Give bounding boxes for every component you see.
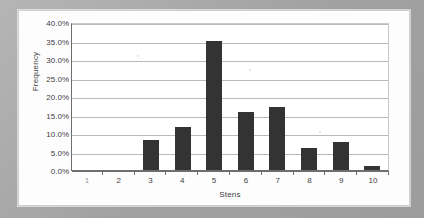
y-axis-tick-label: 30.0% xyxy=(21,56,69,65)
tick-slot xyxy=(262,171,294,175)
bar[interactable] xyxy=(143,140,159,170)
tick-slot xyxy=(230,171,262,175)
y-axis-tick-label: 10.0% xyxy=(21,130,69,139)
bar[interactable] xyxy=(364,166,380,170)
y-axis-tick-label: 20.0% xyxy=(21,93,69,102)
bar-slot xyxy=(135,24,167,170)
tick-slot xyxy=(166,171,198,175)
bar-slot xyxy=(72,24,104,170)
tick-slot xyxy=(325,171,357,175)
x-axis-tick-label: 5 xyxy=(198,176,230,185)
x-axis-tick-labels: 12345678910 xyxy=(71,176,389,185)
bar[interactable] xyxy=(175,127,191,170)
x-axis-tick-label: 7 xyxy=(262,176,294,185)
bar-slot xyxy=(325,24,357,170)
y-axis-tick-label: 15.0% xyxy=(21,111,69,120)
y-axis-tick-label: 5.0% xyxy=(21,148,69,157)
y-axis-tick-label: 25.0% xyxy=(21,74,69,83)
bar-slot xyxy=(198,24,230,170)
scan-speckle xyxy=(137,55,139,57)
y-axis-tick-label: 35.0% xyxy=(21,37,69,46)
y-axis-tick-label: 0.0% xyxy=(21,167,69,176)
bar-series xyxy=(72,24,388,170)
x-axis-tick-label: 9 xyxy=(325,176,357,185)
scan-speckle xyxy=(319,131,321,133)
bar[interactable] xyxy=(301,148,317,170)
bar[interactable] xyxy=(238,112,254,170)
bar[interactable] xyxy=(333,142,349,170)
bar-slot xyxy=(104,24,136,170)
bar-slot xyxy=(230,24,262,170)
x-axis-tick-label: 6 xyxy=(230,176,262,185)
tick-slot xyxy=(71,171,103,175)
bar[interactable] xyxy=(206,41,222,171)
x-axis-tick-label: 2 xyxy=(103,176,135,185)
x-axis-tick-label: 10 xyxy=(357,176,389,185)
chart-page: Frequency 40.0%35.0%30.0%25.0%20.0%15.0%… xyxy=(0,0,424,218)
tick-slot xyxy=(294,171,326,175)
x-axis-title: Stens xyxy=(71,190,389,199)
tick-slot xyxy=(357,171,389,175)
tick-slot xyxy=(198,171,230,175)
scan-speckle xyxy=(249,69,251,71)
bar[interactable] xyxy=(269,107,285,170)
bar-slot xyxy=(356,24,388,170)
x-axis-tick-marks xyxy=(71,171,389,175)
y-axis-tick-label: 40.0% xyxy=(21,19,69,28)
bar-slot xyxy=(167,24,199,170)
tick-slot xyxy=(103,171,135,175)
x-axis-tick-label: 4 xyxy=(166,176,198,185)
x-axis-tick-label: 8 xyxy=(294,176,326,185)
x-axis-tick-label: 3 xyxy=(135,176,167,185)
bar-slot xyxy=(262,24,294,170)
plot-area xyxy=(71,23,389,171)
y-axis-tick-labels: 40.0%35.0%30.0%25.0%20.0%15.0%10.0%5.0%0… xyxy=(21,23,69,171)
bar-slot xyxy=(293,24,325,170)
x-axis-tick-mark xyxy=(388,171,389,175)
x-axis-tick-label: 1 xyxy=(71,176,103,185)
chart-card: Frequency 40.0%35.0%30.0%25.0%20.0%15.0%… xyxy=(18,10,410,206)
tick-slot xyxy=(135,171,167,175)
